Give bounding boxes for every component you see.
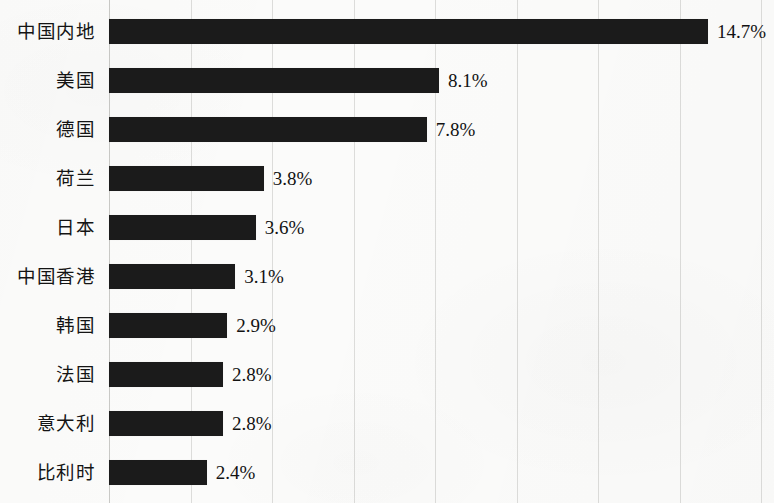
bar-row: 韩国2.9% xyxy=(0,313,774,362)
bar xyxy=(109,117,427,142)
bar-row: 美国8.1% xyxy=(0,68,774,117)
plot-area: 中国内地14.7%美国8.1%德国7.8%荷兰3.8%日本3.6%中国香港3.1… xyxy=(0,0,774,503)
value-label: 2.8% xyxy=(232,411,272,437)
bar xyxy=(109,264,235,289)
value-label: 2.9% xyxy=(236,313,276,339)
value-label: 2.8% xyxy=(232,362,272,388)
bar xyxy=(109,19,708,44)
value-label: 2.4% xyxy=(216,460,256,486)
category-label: 荷兰 xyxy=(56,166,95,192)
category-label: 德国 xyxy=(56,117,95,143)
category-label: 意大利 xyxy=(37,411,95,437)
value-label: 8.1% xyxy=(448,68,488,94)
value-label: 14.7% xyxy=(717,19,766,45)
bar-chart: 中国内地14.7%美国8.1%德国7.8%荷兰3.8%日本3.6%中国香港3.1… xyxy=(0,0,774,503)
bar-row: 日本3.6% xyxy=(0,215,774,264)
bar xyxy=(109,166,264,191)
value-label: 3.6% xyxy=(265,215,305,241)
bar xyxy=(109,68,439,93)
bar xyxy=(109,411,223,436)
bar xyxy=(109,362,223,387)
bar xyxy=(109,313,227,338)
category-label: 中国香港 xyxy=(17,264,95,290)
bar-row: 意大利2.8% xyxy=(0,411,774,460)
value-label: 3.1% xyxy=(244,264,284,290)
value-label: 7.8% xyxy=(436,117,476,143)
bar-row: 荷兰3.8% xyxy=(0,166,774,215)
bar xyxy=(109,460,207,485)
category-label: 比利时 xyxy=(37,460,95,486)
bar-row: 德国7.8% xyxy=(0,117,774,166)
category-label: 日本 xyxy=(56,215,95,241)
bar-row: 法国2.8% xyxy=(0,362,774,411)
bar-row: 比利时2.4% xyxy=(0,460,774,503)
bar-row: 中国内地14.7% xyxy=(0,19,774,68)
category-label: 美国 xyxy=(56,68,95,94)
category-label: 中国内地 xyxy=(17,19,95,45)
category-label: 韩国 xyxy=(56,313,95,339)
value-label: 3.8% xyxy=(273,166,313,192)
bar xyxy=(109,215,256,240)
category-label: 法国 xyxy=(56,362,95,388)
bar-row: 中国香港3.1% xyxy=(0,264,774,313)
